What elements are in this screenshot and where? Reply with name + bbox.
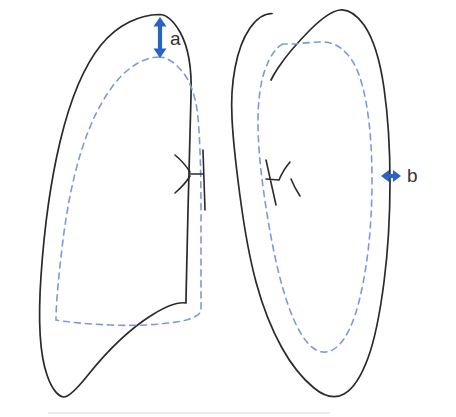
diagram-canvas: a b xyxy=(0,0,456,417)
lateral-measure-label: b xyxy=(407,165,418,186)
pneumothorax-lung-diagram: a b xyxy=(0,0,456,417)
apical-measure-label: a xyxy=(170,28,181,49)
